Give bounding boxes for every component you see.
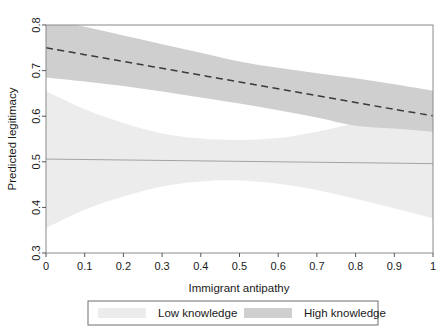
x-tick-label: 0.8 <box>348 260 363 272</box>
x-tick-label: 0.9 <box>387 260 402 272</box>
legend-label-low-knowledge: Low knowledge <box>158 307 237 319</box>
y-tick-label: 0.8 <box>30 17 42 32</box>
x-tick-label: 0.4 <box>193 260 208 272</box>
x-tick-label: 0 <box>43 260 49 272</box>
y-tick-label: 0.5 <box>30 154 42 169</box>
x-tick-label: 0.1 <box>77 260 92 272</box>
x-tick-label: 0.3 <box>154 260 169 272</box>
y-axis-label: Predicted legitimacy <box>6 87 18 190</box>
x-axis-label: Immigrant antipathy <box>189 282 290 294</box>
y-tick-label: 0.6 <box>30 109 42 124</box>
x-tick-label: 0.6 <box>271 260 286 272</box>
legend-label-high-knowledge: High knowledge <box>304 307 386 319</box>
x-tick-label: 1 <box>430 260 436 272</box>
predicted-legitimacy-chart: 0.30.40.50.60.70.8 00.10.20.30.40.50.60.… <box>0 0 444 329</box>
x-tick-label: 0.5 <box>232 260 247 272</box>
x-tick-label: 0.7 <box>309 260 324 272</box>
y-tick-label: 0.3 <box>30 245 42 260</box>
legend-swatch-high-knowledge <box>244 308 292 318</box>
legend: Low knowledge High knowledge <box>88 301 386 325</box>
x-tick-label: 0.2 <box>116 260 131 272</box>
y-tick-label: 0.4 <box>30 200 42 215</box>
legend-swatch-low-knowledge <box>98 308 146 318</box>
y-tick-label: 0.7 <box>30 63 42 78</box>
